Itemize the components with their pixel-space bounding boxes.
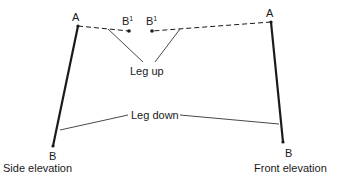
front-point-b1-letter: B bbox=[146, 15, 153, 27]
leg-up-annotation: Leg up bbox=[108, 29, 180, 77]
side-point-b-label: B bbox=[49, 150, 56, 162]
side-leg-down-line bbox=[53, 26, 78, 146]
front-point-a-label: A bbox=[266, 7, 274, 19]
leg-up-label: Leg up bbox=[130, 65, 164, 77]
leg-up-leader-right bbox=[155, 29, 180, 62]
front-point-b1-dot bbox=[150, 29, 154, 33]
leg-down-label: Leg down bbox=[131, 109, 179, 121]
side-point-b1-superscript: 1 bbox=[129, 15, 133, 22]
front-elevation-caption: Front elevation bbox=[254, 162, 327, 174]
side-point-b1-dot bbox=[127, 29, 131, 33]
front-elevation: A B B1 Front elevation bbox=[146, 7, 327, 174]
side-point-b1-letter: B bbox=[122, 15, 129, 27]
side-point-b1-label: B1 bbox=[122, 15, 133, 27]
front-point-b-dot bbox=[281, 140, 284, 143]
side-elevation: A B B1 Side elevation bbox=[3, 11, 133, 174]
leg-down-leader-right bbox=[180, 115, 279, 124]
leg-down-annotation: Leg down bbox=[60, 109, 279, 130]
leg-elevation-diagram: A B B1 Side elevation A B B1 Front eleva… bbox=[0, 0, 338, 182]
front-point-b-label: B bbox=[285, 147, 292, 159]
side-point-a-label: A bbox=[72, 11, 80, 23]
front-point-a-dot bbox=[269, 20, 272, 23]
front-point-b1-label: B1 bbox=[146, 15, 157, 27]
side-point-a-dot bbox=[76, 24, 79, 27]
side-elevation-caption: Side elevation bbox=[3, 162, 72, 174]
leg-up-leader-left bbox=[108, 29, 143, 62]
side-point-b-dot bbox=[51, 144, 54, 147]
front-point-b1-superscript: 1 bbox=[153, 15, 157, 22]
leg-down-leader-left bbox=[60, 115, 128, 130]
front-leg-up-line bbox=[152, 22, 271, 31]
